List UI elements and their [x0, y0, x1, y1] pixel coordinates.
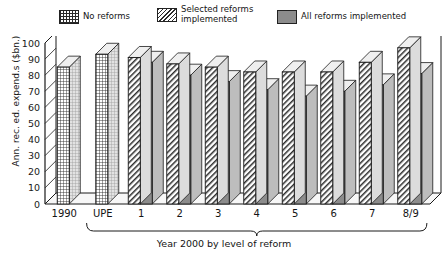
x-axis-label-6: 6 [331, 208, 337, 219]
y-axis-tick [45, 161, 56, 172]
bar-7-diag [359, 51, 382, 204]
bar-5-diag [282, 61, 305, 204]
y-axis-tick-label: 50 [28, 118, 40, 129]
bar-2-diag [167, 53, 190, 204]
chart-canvas: 0102030405060708090100 [0, 36, 448, 216]
y-axis-tick-label: 80 [28, 70, 40, 81]
legend-item-selected-reforms: Selected reforms implemented [157, 5, 253, 24]
x-axis-label-1: 1 [138, 208, 144, 219]
x-axis-label-4: 4 [254, 208, 260, 219]
x-axis-label-5: 5 [292, 208, 298, 219]
x-axis-label-8-9: 8/9 [403, 208, 419, 219]
x-axis-label-7: 7 [369, 208, 375, 219]
y-axis-tick-label: 90 [28, 54, 40, 65]
legend-label-all-reforms: All reforms implemented [301, 12, 406, 22]
x-axis-title: Year 2000 by level of reform [0, 238, 448, 249]
y-axis-tick-label: 10 [28, 182, 40, 193]
legend-item-no-reforms: No reforms [59, 10, 130, 24]
y-axis-tick [45, 177, 56, 188]
bar-1-diag [128, 46, 151, 204]
y-axis-tick-label: 70 [28, 86, 40, 97]
x-axis-label-2: 2 [177, 208, 183, 219]
x-axis-label-3: 3 [215, 208, 221, 219]
x-axis-bracket [0, 222, 448, 238]
y-axis-tick-label: 100 [22, 38, 40, 49]
legend-item-all-reforms: All reforms implemented [277, 10, 406, 24]
y-axis-tick [45, 64, 56, 75]
y-axis-tick-label: 30 [28, 150, 40, 161]
legend-swatch-grid-icon [59, 10, 79, 24]
y-axis-tick [45, 96, 56, 107]
chart-plot-area: 0102030405060708090100 Ann. rec. ed. exp… [0, 36, 448, 216]
bracket-path [87, 223, 427, 236]
x-axis-label-UPE: UPE [93, 208, 113, 219]
legend-label-no-reforms: No reforms [83, 12, 130, 22]
y-axis-tick [45, 113, 56, 124]
y-axis-tick-label: 60 [28, 102, 40, 113]
legend-swatch-diagonal-icon [157, 8, 177, 22]
y-axis-tick-label: 40 [28, 134, 40, 145]
bar-8-9-diag [398, 37, 421, 204]
bar-6-diag [321, 61, 344, 204]
y-axis-tick-label: 20 [28, 166, 40, 177]
bar-3-diag [205, 56, 228, 204]
bar-1990-grid [57, 56, 80, 204]
x-axis-label-1990: 1990 [52, 208, 77, 219]
chart-legend: No reforms Selected reforms implemented … [0, 4, 448, 36]
y-axis-tick [45, 48, 56, 59]
bar-4-diag [244, 61, 267, 204]
legend-label-selected-reforms: Selected reforms implemented [181, 5, 253, 24]
y-axis-tick [45, 145, 56, 156]
bar-UPE-grid [96, 43, 119, 204]
legend-swatch-solid-icon [277, 10, 297, 24]
y-axis-tick [45, 80, 56, 91]
y-axis-tick [45, 129, 56, 140]
y-axis-title: Ann. rec. ed. expend.s ($bn.) [11, 26, 21, 176]
